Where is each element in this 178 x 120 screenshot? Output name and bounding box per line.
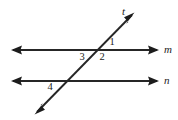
parallel-lines-transversal-figure: m n t 1 2 3 4 (0, 0, 178, 120)
line-m-label: m (164, 43, 172, 55)
geometry-diagram: m n t 1 2 3 4 (0, 0, 178, 120)
line-t-segment (37, 15, 132, 112)
line-n-right-arrowhead (148, 76, 159, 85)
line-n-group: n (11, 74, 170, 86)
angle-label-3: 3 (79, 51, 84, 62)
line-t-label: t (122, 5, 126, 17)
angle-label-2: 2 (99, 51, 104, 62)
angle-labels-group: 1 2 3 4 (47, 36, 114, 92)
line-n-left-arrowhead (11, 76, 22, 85)
line-m-group: m (11, 43, 172, 55)
line-m-right-arrowhead (148, 45, 159, 54)
line-m-left-arrowhead (11, 45, 22, 54)
angle-label-1: 1 (109, 36, 114, 47)
angle-label-4: 4 (47, 81, 53, 92)
line-n-label: n (164, 74, 170, 86)
